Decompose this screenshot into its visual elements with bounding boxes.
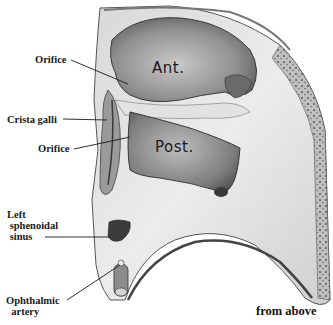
anatomical-figure: Ant. Post. Orifice Crista galli Orifice … <box>0 0 333 325</box>
callout-crista-galli: Crista galli <box>7 114 57 125</box>
callout-ophthalmic-artery: Ophthalmic artery <box>6 295 60 317</box>
callout-orifice-lower: Orifice <box>38 143 69 154</box>
figure-caption: from above <box>256 304 317 319</box>
region-label-anterior: Ant. <box>152 59 184 77</box>
region-label-posterior: Post. <box>155 138 194 156</box>
callout-left-sphenoidal-sinus: Left sphenoidal sinus <box>7 209 58 242</box>
bone-illustration <box>0 0 333 325</box>
posterior-recess <box>214 187 228 197</box>
callout-orifice-upper: Orifice <box>35 54 66 65</box>
